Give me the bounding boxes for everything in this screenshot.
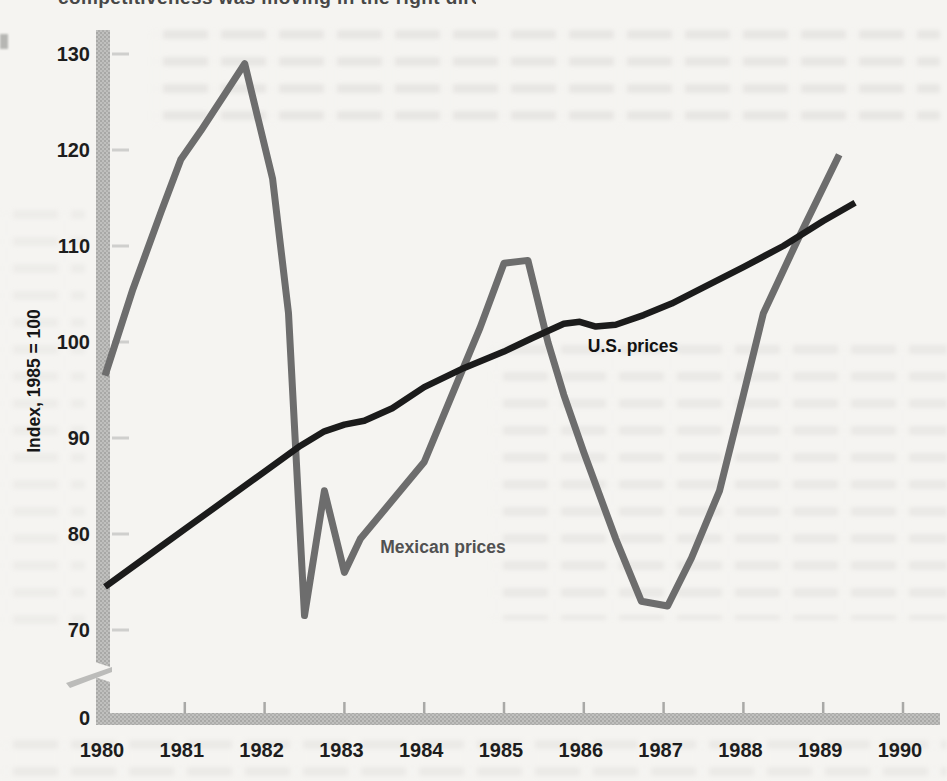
y-tick-label: 130 [57, 43, 90, 65]
y-tick-label: 120 [57, 139, 90, 161]
y-tick-label: 100 [57, 331, 90, 353]
x-tick-label: 1985 [479, 739, 524, 761]
x-tick-label: 1982 [239, 739, 284, 761]
x-tick-label: 1987 [638, 739, 683, 761]
x-tick-label: 1980 [80, 739, 125, 761]
mexican-label: Mexican prices [380, 537, 506, 557]
y-tick-label: 90 [68, 427, 90, 449]
y-tick-label: 80 [68, 523, 90, 545]
x-tick-label: 1990 [878, 739, 923, 761]
x-tick-label: 1983 [319, 739, 364, 761]
y-tick-label: 70 [68, 619, 90, 641]
x-axis-bar [96, 713, 940, 725]
x-tick-label: 1989 [798, 739, 843, 761]
x-tick-label: 1988 [718, 739, 763, 761]
y-axis-title: Index, 1985 = 100 [24, 309, 44, 453]
x-tick-label: 1981 [160, 739, 205, 761]
series-line-mexican-prices [105, 64, 839, 616]
x-tick-label: 1986 [559, 739, 604, 761]
chart-generated-layer: 0708090100110120130198019811982198319841… [57, 43, 923, 761]
scanned-book-page: competitiveness was moving in the right … [0, 0, 947, 781]
us-label: U.S. prices [588, 336, 679, 356]
y-tick-label: 110 [58, 235, 90, 257]
chart-svg: 0708090100110120130198019811982198319841… [0, 0, 947, 781]
y-tick-label: 0 [79, 707, 90, 729]
x-tick-label: 1984 [399, 739, 444, 761]
